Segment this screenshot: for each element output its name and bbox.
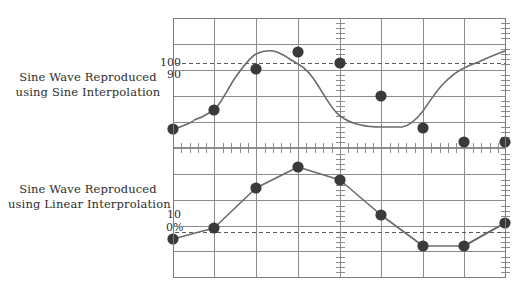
bottom-chart-grid	[173, 148, 506, 278]
data-point	[208, 222, 219, 233]
oscilloscope-plot	[0, 0, 514, 292]
data-point	[417, 240, 428, 251]
data-point	[250, 182, 261, 193]
data-point	[458, 240, 469, 251]
data-point	[250, 63, 261, 74]
data-point	[334, 174, 345, 185]
data-point	[375, 209, 386, 220]
data-point	[375, 90, 386, 101]
top-chart-grid	[173, 18, 506, 148]
data-point	[292, 161, 303, 172]
figure-root: Sine Wave Reproduced using Sine Interpol…	[0, 0, 514, 292]
data-point	[334, 57, 345, 68]
data-point	[208, 104, 219, 115]
data-point	[417, 122, 428, 133]
data-point	[292, 46, 303, 57]
data-point	[458, 136, 469, 147]
